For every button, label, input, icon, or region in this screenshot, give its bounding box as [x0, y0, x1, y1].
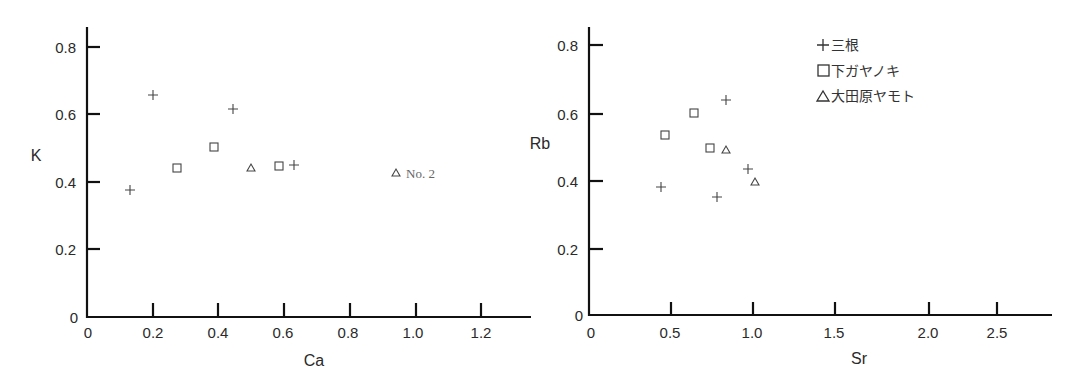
plus-marker [656, 182, 666, 192]
plus-marker [712, 192, 722, 202]
left-series-shimogayanoki [173, 143, 283, 172]
right-series-shimogayanoki [661, 109, 714, 152]
left-xtick-label: 1.0 [403, 324, 424, 341]
left-ytick-label: 0 [70, 309, 78, 326]
left-axes [87, 27, 531, 317]
right-series-sankon [656, 95, 753, 202]
right-y-axis-label: Rb [530, 135, 551, 152]
square-marker [690, 109, 698, 117]
right-xtick-label: 0 [587, 324, 595, 341]
left-xtick-label: 0 [84, 324, 92, 341]
right-ytick-label: 0.8 [557, 37, 578, 54]
left-ytick-label: 0.8 [55, 39, 76, 56]
left-y-axis-label: K [31, 147, 42, 164]
right-xtick-label: 2.0 [918, 324, 939, 341]
triangle-marker [392, 169, 400, 176]
square-marker [275, 162, 283, 170]
legend-item-sankon: 三根 [817, 37, 859, 53]
plus-marker [228, 104, 238, 114]
left-x-axis-label: Ca [304, 352, 325, 369]
right-xtick-label: 2.5 [987, 324, 1008, 341]
plus-marker [743, 164, 753, 174]
right-ytick-label: 0.2 [557, 241, 578, 258]
left-xtick-label: 0.8 [338, 324, 359, 341]
annotation-no2: No. 2 [406, 166, 435, 181]
square-marker [210, 143, 218, 151]
legend-label: 下ガヤノキ [831, 63, 900, 79]
right-ytick-label: 0.6 [557, 106, 578, 123]
left-xtick-label: 0.2 [143, 324, 164, 341]
triangle-marker [722, 146, 730, 153]
square-marker [661, 131, 669, 139]
plus-marker [289, 160, 299, 170]
chart-sr-rb: 0 0.2 0.4 0.6 0.8 0 0.5 1.0 1.5 2.0 2.5 … [530, 27, 1052, 367]
right-xtick-label: 1.5 [824, 324, 845, 341]
square-icon [818, 65, 829, 76]
plus-icon [817, 39, 829, 51]
plus-marker [125, 185, 135, 195]
figure: 0 0.2 0.4 0.6 0.8 0 0.2 0.4 0.6 0.8 1.0 … [0, 0, 1080, 383]
right-xtick-label: 0.5 [660, 324, 681, 341]
plus-marker [721, 95, 731, 105]
plus-marker [148, 90, 158, 100]
legend-item-otawarayamoto: 大田原ヤモト [817, 88, 915, 104]
right-x-axis-label: Sr [851, 350, 868, 367]
legend: 三根 下ガヤノキ 大田原ヤモト [817, 37, 915, 104]
left-ytick-label: 0.4 [55, 174, 76, 191]
triangle-marker [247, 164, 255, 171]
left-ytick-label: 0.6 [55, 106, 76, 123]
left-xtick-label: 1.2 [471, 324, 492, 341]
square-marker [173, 164, 181, 172]
right-xtick-label: 1.0 [742, 324, 763, 341]
square-marker [706, 144, 714, 152]
chart-ca-k: 0 0.2 0.4 0.6 0.8 0 0.2 0.4 0.6 0.8 1.0 … [31, 27, 531, 369]
right-ytick-label: 0.4 [557, 173, 578, 190]
triangle-icon [817, 91, 829, 101]
legend-label: 三根 [831, 37, 859, 53]
left-series-otawarayamoto [247, 164, 400, 176]
legend-item-shimogayanoki: 下ガヤノキ [818, 63, 900, 79]
left-xtick-label: 0.6 [273, 324, 294, 341]
right-ytick-label: 0 [575, 307, 583, 324]
right-axes [589, 27, 1052, 315]
left-ytick-label: 0.2 [55, 241, 76, 258]
legend-label: 大田原ヤモト [831, 88, 915, 104]
left-xtick-label: 0.4 [208, 324, 229, 341]
right-series-otawarayamoto [722, 146, 759, 185]
triangle-marker [751, 178, 759, 185]
